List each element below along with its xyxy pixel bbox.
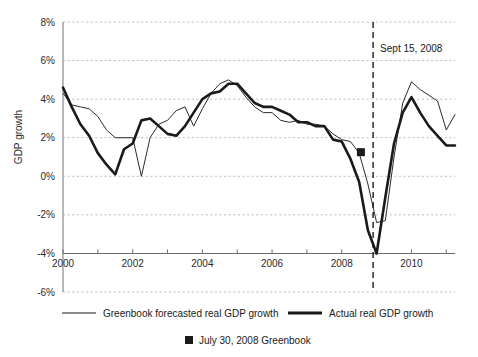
legend-swatch-july-30-2008-greenbook [185, 336, 193, 344]
legend-label-actual-gdp: Actual real GDP growth [329, 308, 433, 319]
legend-group: Greenbook forecasted real GDP growthActu… [62, 308, 433, 346]
chart-canvas: 8%6%4%2%0%-2%-4%-6% 20002002200420062008… [0, 0, 478, 357]
x-tick-label-2002: 2002 [122, 258, 145, 269]
x-tick-labels-group: 200020022004200620082010 [52, 258, 423, 269]
x-tick-label-2004: 2004 [191, 258, 214, 269]
gdp-growth-chart-figure: 8%6%4%2%0%-2%-4%-6% 20002002200420062008… [0, 0, 478, 357]
x-tick-label-2010: 2010 [400, 258, 423, 269]
x-tick-marks-group [63, 249, 446, 253]
y-axis-title: GDP growth [13, 110, 24, 164]
series-line-greenbook-forecast [63, 80, 455, 223]
y-tick-label-4: 4% [41, 94, 56, 105]
legend-label-greenbook-forecast: Greenbook forecasted real GDP growth [103, 308, 278, 319]
event-label-sept-15-2008: Sept 15, 2008 [380, 43, 443, 54]
marker-july-30-2008-greenbook [357, 148, 365, 156]
y-tick-label-8: 8% [41, 17, 56, 28]
y-tick-label--2: -2% [37, 209, 55, 220]
legend-label-july-30-2008-greenbook: July 30, 2008 Greenbook [199, 335, 312, 346]
y-tick-label-2: 2% [41, 132, 56, 143]
marker-group [357, 148, 365, 156]
y-tick-label-0: 0% [41, 171, 56, 182]
y-tick-label--4: -4% [37, 248, 55, 259]
annotations-group: Sept 15, 2008 [373, 22, 443, 292]
x-tick-label-2008: 2008 [331, 258, 354, 269]
y-axis-title-group: GDP growth [13, 110, 24, 164]
y-tick-labels-group: 8%6%4%2%0%-2%-4%-6% [37, 17, 55, 298]
y-tick-label--6: -6% [37, 287, 55, 298]
data-series-group [63, 80, 455, 254]
y-tick-label-6: 6% [41, 55, 56, 66]
x-tick-label-2006: 2006 [261, 258, 284, 269]
x-tick-label-2000: 2000 [52, 258, 75, 269]
